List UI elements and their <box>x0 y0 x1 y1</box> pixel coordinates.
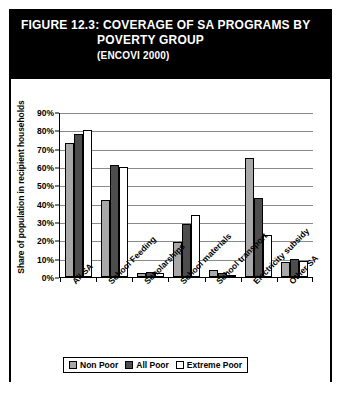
legend-swatch <box>176 361 184 369</box>
y-axis-tick-label: 70% <box>37 145 54 155</box>
legend-item-non-poor[interactable]: Non Poor <box>69 360 118 370</box>
bars-layer <box>60 113 313 277</box>
y-axis-tick-label: 50% <box>37 181 54 191</box>
legend-swatch <box>125 361 133 369</box>
legend-swatch <box>69 361 77 369</box>
legend-label: Non Poor <box>80 360 118 370</box>
y-axis-tick-labels: 90%80%70%60%50%40%30%20%10%0% <box>31 113 59 278</box>
y-axis-tick-label: 90% <box>37 108 54 118</box>
y-axis-tick-label: 10% <box>37 255 54 265</box>
legend-label: All Poor <box>136 360 169 370</box>
y-axis-title-text: Share of population in recipient househo… <box>16 100 26 273</box>
y-axis-tick-label: 30% <box>37 218 54 228</box>
legend-item-extreme-poor[interactable]: Extreme Poor <box>176 360 242 370</box>
bar <box>74 134 83 277</box>
chart-body: Share of population in recipient househo… <box>11 79 330 382</box>
bar <box>65 143 74 277</box>
x-axis-category-labels: All SASchool FeedingScholarshipsSchool m… <box>59 279 317 351</box>
bar-group <box>96 113 132 277</box>
bar <box>110 165 119 277</box>
figure-title-line-1: FIGURE 12.3: COVERAGE OF SA PROGRAMS BY <box>21 18 322 33</box>
figure-title-line-2: POVERTY GROUP <box>21 33 322 48</box>
bar <box>281 262 290 277</box>
bar-group <box>60 113 96 277</box>
y-axis-tick-label: 20% <box>37 236 54 246</box>
y-axis-tick-label: 40% <box>37 200 54 210</box>
bar <box>83 130 92 277</box>
y-axis-tick-label: 0% <box>42 273 54 283</box>
figure-frame: FIGURE 12.3: COVERAGE OF SA PROGRAMS BY … <box>9 9 332 382</box>
figure-title-banner: FIGURE 12.3: COVERAGE OF SA PROGRAMS BY … <box>11 11 330 79</box>
figure-title-subtitle: (ENCOVI 2000) <box>21 48 322 63</box>
y-axis-title: Share of population in recipient househo… <box>13 89 29 285</box>
y-axis-tick-label: 80% <box>37 126 54 136</box>
y-axis-tick-label: 60% <box>37 163 54 173</box>
chart-legend: Non PoorAll PoorExtreme Poor <box>63 357 248 373</box>
legend-label: Extreme Poor <box>187 360 242 370</box>
legend-item-all-poor[interactable]: All Poor <box>125 360 169 370</box>
bar <box>101 200 110 277</box>
